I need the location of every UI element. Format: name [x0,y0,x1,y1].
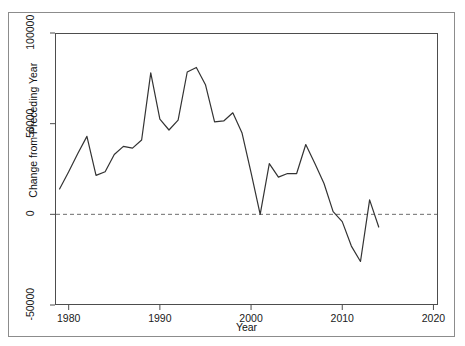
y-axis-title: Change from Preceding Year [28,35,39,225]
chart-vector-layer [0,0,465,346]
data-series-line [60,67,379,261]
chart-figure: -50000050000100000 19801990200020102020 … [0,0,465,346]
x-axis-title: Year [55,322,438,333]
y-axis-ticks [50,33,55,305]
x-axis-ticks [69,305,434,310]
y-axis-tick-label: -50000 [25,281,36,327]
